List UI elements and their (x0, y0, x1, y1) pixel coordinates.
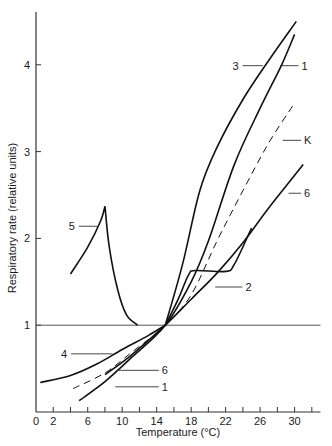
curve-label-text: 4 (61, 348, 67, 360)
x-tick-label: 10 (116, 415, 128, 427)
label-5: 5 (69, 220, 98, 232)
curve-label-text: 5 (69, 220, 75, 232)
x-tick-label: 6 (85, 415, 91, 427)
y-tick-label: 2 (24, 232, 30, 244)
curve-label-text: K (304, 134, 312, 146)
x-tick-label: 22 (220, 415, 232, 427)
y-tick-label: 3 (24, 146, 30, 158)
curve-label-text: 2 (245, 281, 251, 293)
y-tick-label: 1 (24, 319, 30, 331)
label-2: 2 (215, 281, 251, 293)
label-6-lower: 6 (117, 364, 168, 376)
curve-label-text: 6 (162, 364, 168, 376)
curve-label-text: 1 (162, 381, 168, 393)
y-tick-label: 4 (24, 59, 30, 71)
respiratory-rate-chart: 0261014182226301234 311K66245 Temperatur… (0, 0, 332, 446)
label-1-lower: 1 (115, 381, 168, 393)
x-axis-title: Temperature (°C) (136, 426, 220, 438)
curve-label-text: 1 (301, 60, 307, 72)
label-4: 4 (61, 348, 113, 360)
label-3: 3 (232, 60, 262, 72)
x-tick-label: 26 (254, 415, 266, 427)
y-axis-title: Respiratory rate (relative units) (6, 143, 18, 293)
x-tick-label: 30 (288, 415, 300, 427)
curve-label-text: 6 (304, 187, 310, 199)
label-6: 6 (289, 187, 311, 199)
x-tick-label: 2 (50, 415, 56, 427)
curves (40, 21, 303, 400)
curve-5 (71, 206, 138, 325)
curve-k (73, 106, 293, 389)
x-tick-label: 0 (33, 415, 39, 427)
label-k: K (283, 134, 313, 146)
curve-label-text: 3 (232, 60, 238, 72)
label-1: 1 (280, 60, 308, 72)
